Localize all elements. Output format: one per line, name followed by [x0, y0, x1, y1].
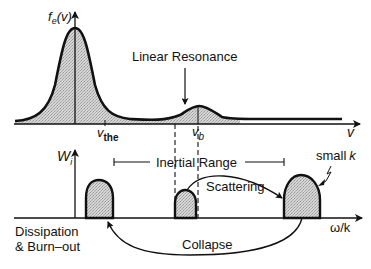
scattering-label: Scattering [206, 179, 265, 194]
x-axis-label-v: v [347, 124, 355, 140]
linear-resonance-label: Linear Resonance [132, 49, 238, 64]
spectrum-blob-small-k [284, 175, 320, 218]
collapse-label: Collapse [182, 237, 233, 252]
y-axis-label-fe: fe(v) [48, 9, 72, 26]
spectrum-blob-resonant [175, 190, 196, 218]
burnout-label: & Burn–out [15, 239, 80, 254]
tick-label-vthe: vthe [97, 125, 119, 143]
plasma-turbulence-diagram: fe(v) v vthe vb Linear Resonance Wi ω [0, 0, 371, 269]
distribution-fill [15, 28, 240, 124]
y-axis-label-wi: Wi [57, 148, 73, 167]
spectrum-blob-dissipation [86, 180, 113, 218]
inertial-range-label: Inertial Range [156, 155, 237, 170]
bottom-plot: Wi ω/k Inertial Range smallk Scattering … [14, 148, 362, 255]
small-k-label: smallk [316, 148, 357, 163]
small-k-pointer-head [318, 179, 325, 186]
top-plot: fe(v) v vthe vb Linear Resonance [14, 9, 360, 143]
x-axis-label-omega-k: ω/k [330, 220, 351, 235]
dissipation-label: Dissipation [15, 224, 79, 239]
